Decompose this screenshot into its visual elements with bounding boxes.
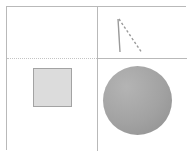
sphere-shape	[103, 66, 172, 135]
divider-vertical	[97, 7, 98, 151]
line-plot	[97, 7, 187, 58]
solid-vertical-line	[118, 19, 120, 52]
divider-horizontal-dotted	[7, 58, 97, 59]
panel-bottom-left	[7, 58, 97, 151]
figure-frame	[6, 6, 186, 150]
panel-bottom-right	[97, 58, 187, 151]
figure-root	[0, 0, 192, 157]
panel-top-right	[97, 7, 187, 58]
divider-horizontal-solid	[97, 58, 187, 59]
panel-top-left	[7, 7, 97, 58]
dashed-diagonal-line	[119, 19, 142, 53]
square-shape	[33, 68, 72, 107]
